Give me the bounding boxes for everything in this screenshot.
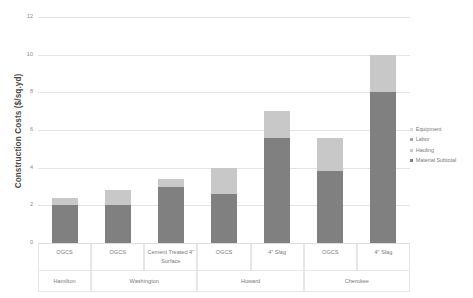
bar-segment-hauling [158,179,184,187]
bar-segment-hauling [317,138,343,172]
category-label-4: 4" Slag [251,244,304,271]
category-label-text: OGCS [322,248,338,257]
category-label-2: Cement Treated 4" Surface [144,244,197,271]
group-label-text: Hamilton [54,277,76,286]
bars-layer [38,17,410,243]
group-label-cherokee: Cherokee [304,271,410,292]
legend-item-material-subtotal: Material Subtotal [410,156,472,167]
category-axis: OGCSOGCSCement Treated 4" SurfaceOGCS4" … [38,244,410,292]
category-label-text: 4" Slag [268,248,286,257]
legend-label: Material Subtotal [416,158,456,163]
group-label-washington: Washington [91,271,197,292]
bar-segment-material-subtotal [105,205,131,243]
bar-4 [264,111,290,243]
bar-segment-material-subtotal [317,171,343,243]
bar-1 [105,190,131,243]
legend-label: Equipment [416,127,442,132]
legend-swatch-icon [410,159,413,162]
category-label-1: OGCS [91,244,144,271]
bar-5 [317,138,343,243]
legend-swatch-icon [410,149,413,152]
y-tick-label-10: 10 [27,52,33,58]
bar-segment-material-subtotal [370,92,396,243]
bar-segment-hauling [52,198,78,206]
category-label-text: OGCS [109,248,125,257]
legend-label: Hauling [416,148,434,153]
category-row-county: HamiltonWashingtonHowardCherokee [38,271,410,292]
bar-segment-hauling [211,168,237,194]
plot-area: 024681012 [38,17,410,243]
y-tick-label-0: 0 [30,240,33,246]
y-tick-label-12: 12 [27,14,33,20]
category-row-material: OGCSOGCSCement Treated 4" SurfaceOGCS4" … [38,244,410,271]
y-tick-label-4: 4 [30,165,33,171]
chart-legend: EquipmentLaborHaulingMaterial Subtotal [410,124,472,166]
legend-swatch-icon [410,138,413,141]
category-label-text: Cement Treated 4" Surface [146,248,195,265]
category-label-text: 4" Slag [374,248,392,257]
bar-segment-material-subtotal [211,194,237,243]
category-label-text: OGCS [216,248,232,257]
legend-swatch-icon [410,128,413,131]
bar-segment-material-subtotal [158,187,184,244]
category-label-5: OGCS [304,244,357,271]
y-tick-label-2: 2 [30,203,33,209]
category-label-6: 4" Slag [357,244,410,271]
category-label-text: OGCS [56,248,72,257]
category-label-3: OGCS [197,244,250,271]
y-tick-label-8: 8 [30,90,33,96]
bar-segment-material-subtotal [52,205,78,243]
category-label-0: OGCS [38,244,91,271]
legend-item-hauling: Hauling [410,145,472,156]
bar-segment-hauling [370,55,396,93]
y-tick-label-6: 6 [30,127,33,133]
bar-0 [52,198,78,243]
legend-item-labor: Labor [410,135,472,146]
bar-segment-material-subtotal [264,138,290,243]
legend-item-equipment: Equipment [410,124,472,135]
group-label-text: Washington [130,277,159,286]
bar-segment-hauling [105,190,131,205]
stacked-bar-chart: Construction Costs ($/sq.yd) 024681012 O… [0,0,473,298]
bar-6 [370,55,396,243]
bar-3 [211,168,237,243]
bar-2 [158,179,184,243]
legend-label: Labor [416,137,430,142]
group-label-hamilton: Hamilton [38,271,91,292]
group-label-howard: Howard [197,271,303,292]
group-label-text: Cherokee [345,277,369,286]
group-label-text: Howard [241,277,260,286]
bar-segment-hauling [264,111,290,137]
